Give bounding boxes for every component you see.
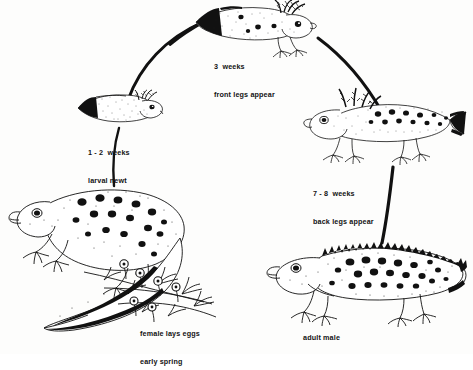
label-line: early spring <box>140 357 200 366</box>
label-line: 3 weeks <box>214 62 275 71</box>
label-line: front legs appear <box>214 90 275 99</box>
figure-adult-male <box>262 236 468 328</box>
label-adult-male: adult male <box>303 315 340 361</box>
label-three-weeks: 3 weeks front legs appear <box>214 44 275 118</box>
label-line: adult male <box>303 333 340 342</box>
arc-seven-eight-to-adult <box>382 167 393 243</box>
figure-seven-eight-weeks-larva <box>300 88 468 168</box>
label-line: 7 - 8 weeks <box>313 189 374 198</box>
label-line: female lays eggs <box>140 329 200 338</box>
label-line: 1 - 2 weeks <box>88 148 130 157</box>
figure-larval-newt <box>72 88 170 128</box>
label-female-lays-eggs: female lays eggs early spring <box>140 311 200 370</box>
label-line: back legs appear <box>313 217 374 226</box>
label-seven-eight-weeks: 7 - 8 weeks back legs appear <box>313 171 374 245</box>
